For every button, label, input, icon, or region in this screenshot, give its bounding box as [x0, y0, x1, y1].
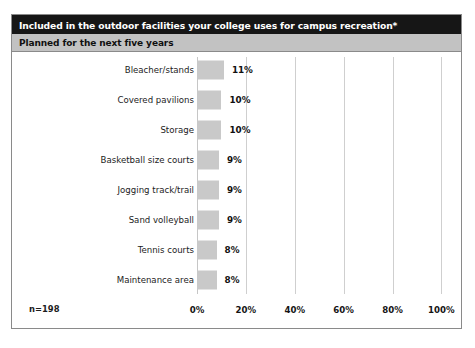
x-axis-tick-label: 60%: [333, 305, 354, 315]
chart-row: Storage10%: [12, 115, 463, 145]
chart-subtitle-bar: Planned for the next five years: [12, 34, 461, 52]
category-label: Covered pavilions: [117, 95, 194, 105]
bar-value-label: 9%: [227, 215, 242, 225]
category-label: Sand volleyball: [129, 215, 194, 225]
x-axis-tick-label: 20%: [236, 305, 257, 315]
bar: [197, 181, 219, 200]
plot-area: 0%20%40%60%80%100%Bleacher/stands11%Cove…: [12, 53, 463, 329]
bar: [197, 91, 221, 110]
bar-value-label: 9%: [227, 185, 242, 195]
bar-value-label: 10%: [229, 95, 250, 105]
bar: [197, 121, 221, 140]
chart-title-bar: Included in the outdoor facilities your …: [12, 15, 461, 34]
bar-value-label: 8%: [225, 245, 240, 255]
chart-figure: Included in the outdoor facilities your …: [11, 14, 462, 329]
chart-row: Jogging track/trail9%: [12, 175, 463, 205]
x-axis-tick-label: 100%: [428, 305, 455, 315]
bar-value-label: 8%: [225, 275, 240, 285]
page-title: Included in the outdoor facilities your …: [19, 19, 397, 30]
chart-row: Sand volleyball9%: [12, 205, 463, 235]
x-axis-tick-label: 40%: [284, 305, 305, 315]
bar: [197, 241, 217, 260]
chart-row: Bleacher/stands11%: [12, 55, 463, 85]
bar-value-label: 11%: [232, 65, 253, 75]
x-axis-tick-label: 0%: [190, 305, 205, 315]
bar: [197, 151, 219, 170]
category-label: Storage: [160, 125, 194, 135]
chart-subtitle: Planned for the next five years: [19, 38, 173, 48]
chart-row: Tennis courts8%: [12, 235, 463, 265]
sample-size-note: n=198: [29, 304, 59, 314]
bar: [197, 211, 219, 230]
chart-row: Covered pavilions10%: [12, 85, 463, 115]
category-label: Jogging track/trail: [118, 185, 194, 195]
chart-row: Maintenance area8%: [12, 265, 463, 295]
bar-value-label: 9%: [227, 155, 242, 165]
bar: [197, 271, 217, 290]
chart-row: Basketball size courts9%: [12, 145, 463, 175]
bar-value-label: 10%: [229, 125, 250, 135]
x-axis-tick-label: 80%: [382, 305, 403, 315]
bar: [197, 61, 224, 80]
category-label: Tennis courts: [138, 245, 194, 255]
category-label: Bleacher/stands: [125, 65, 194, 75]
category-label: Basketball size courts: [101, 155, 194, 165]
category-label: Maintenance area: [117, 275, 194, 285]
